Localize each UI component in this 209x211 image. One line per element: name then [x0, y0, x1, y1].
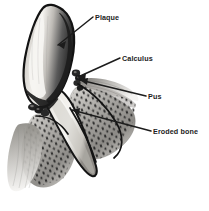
diagram-canvas: Plaque Calculus Pus Eroded bone	[0, 0, 209, 211]
label-calculus: Calculus	[122, 54, 153, 63]
label-pus: Pus	[148, 92, 161, 101]
label-plaque: Plaque	[95, 13, 119, 22]
periodontal-disease-figure: Plaque Calculus Pus Eroded bone	[0, 0, 209, 211]
label-eroded-bone: Eroded bone	[153, 127, 198, 136]
